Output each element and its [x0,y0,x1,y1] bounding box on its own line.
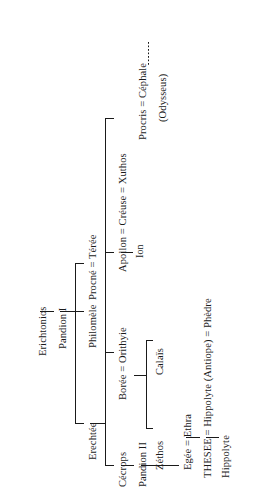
descent-pandion-i-children [60,311,75,312]
node-ion: Ion [135,244,145,258]
descent-thesee-hippolyte [206,437,219,438]
node-pandion-i: Pandion I [58,308,69,349]
descent-cecrops-pandion-ii [121,465,134,466]
sibling-bracket-pandion-i [75,263,76,423]
node-boree-orithyie: Borée = Orithyie [118,327,129,400]
node-philomele: Philomèle [88,305,99,348]
node-erechtee: Erechtée [88,422,99,460]
bracket-arm-creuse [105,252,114,253]
descent-boree-children [134,375,146,376]
descent-egee-thesee [186,437,200,438]
descent-erichtonios-pandion-i [40,311,54,312]
node-calais: Calaïs [155,348,166,375]
bracket-arm-procne [75,263,84,264]
bracket-arm-philomele [75,311,84,312]
node-procne-teree: Procné = Térée [88,235,99,300]
node-apollon-creuse-xuthos: Apollon = Créuse = Xuthos [118,153,129,272]
node-hippolyte: Hippolyte [221,435,232,478]
bracket-arm-erechtee [75,423,84,424]
bracket-arm-calais [146,340,153,341]
bracket-arm-orithyie [105,352,114,353]
node-procris-cephale: Procris = Céphale [138,63,149,140]
sibling-bracket-erechtee [105,118,106,465]
bracket-arm-procris [105,118,114,119]
genealogy-tree: Erichtonios Pandion I Procné = Térée Phi… [0,0,268,487]
node-thesee-line: THESEE = Hippolyte (Antiope) = Phèdre [203,298,214,478]
descent-creuse-ion [121,252,133,253]
node-erichtonios: Erichtonios [38,306,49,356]
node-cecrops: Cécrops [118,452,129,487]
descent-pandion-ii-egee [141,465,179,466]
node-egee-ethra: Egée = Ethra [183,414,194,470]
bracket-arm-cecrops [105,465,114,466]
bracket-arm-zethos [146,428,153,429]
dotted-union-cephale-odysseus [148,42,149,66]
descent-erechtee-children [90,423,105,424]
sibling-bracket-boree [146,340,147,428]
node-odysseus: (Odysseus) [158,74,169,122]
